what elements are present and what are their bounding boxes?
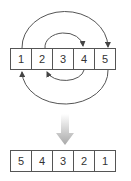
cell-before-3: 4 [73, 48, 95, 70]
cell-before-1: 2 [31, 48, 53, 70]
arc-4-to-2 [47, 70, 84, 80]
cell-after-3: 2 [73, 150, 95, 172]
cell-before-0: 1 [10, 48, 32, 70]
cell-before-2: 3 [52, 48, 74, 70]
arc-2-to-4 [45, 33, 83, 48]
array-before: 1 2 3 4 5 [10, 48, 116, 70]
arc-5-to-1 [22, 70, 108, 104]
cell-after-1: 4 [31, 150, 53, 172]
array-after: 5 4 3 2 1 [10, 150, 116, 172]
cell-after-4: 1 [94, 150, 116, 172]
cell-after-0: 5 [10, 150, 32, 172]
down-arrow-icon [56, 114, 74, 145]
cell-after-2: 3 [52, 150, 74, 172]
arc-1-to-5 [22, 11, 108, 48]
cell-before-4: 5 [94, 48, 116, 70]
